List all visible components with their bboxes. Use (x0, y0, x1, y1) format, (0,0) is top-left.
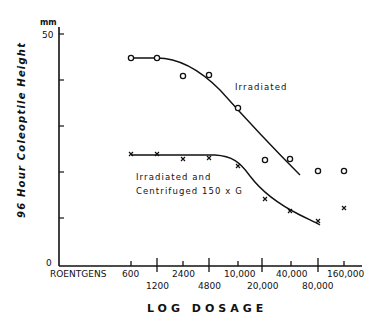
series-label-centrifuged-line2: Centrifuged 150 x G (136, 186, 243, 196)
y-tick-label-0: 0 (46, 258, 52, 268)
x-tick-label-40000: 40,000 (276, 269, 308, 279)
x-tick-label-10000: 10,000 (224, 269, 256, 279)
y-unit-label: mm (40, 18, 57, 27)
markers-irradiated (128, 55, 346, 173)
x-tick-label-20000: 20,000 (247, 281, 279, 291)
x-tick-label-160000: 160,000 (327, 269, 364, 279)
axes (59, 27, 362, 266)
y-axis-title: 96 Hour Coleoptile Height (16, 42, 27, 218)
x-tick-label-1200: 1200 (146, 281, 169, 291)
x-tick-label-600: 600 (122, 269, 139, 279)
series-label-centrifuged-line1: Irradiated and (136, 172, 212, 182)
x-tick-label-2400: 2400 (172, 269, 195, 279)
curve-irradiated (131, 58, 300, 175)
x-axis-title: LOG DOSAGE (147, 302, 267, 315)
chart: mm 50 0 96 Hour Coleoptile Height ROENTG… (0, 0, 381, 332)
y-tick-label-50: 50 (42, 30, 54, 40)
series-label-irradiated: Irradiated (235, 82, 287, 92)
x-unit-label: ROENTGENS (50, 269, 107, 279)
x-tick-label-4800: 4800 (198, 281, 221, 291)
x-tick-label-80000: 80,000 (302, 281, 334, 291)
